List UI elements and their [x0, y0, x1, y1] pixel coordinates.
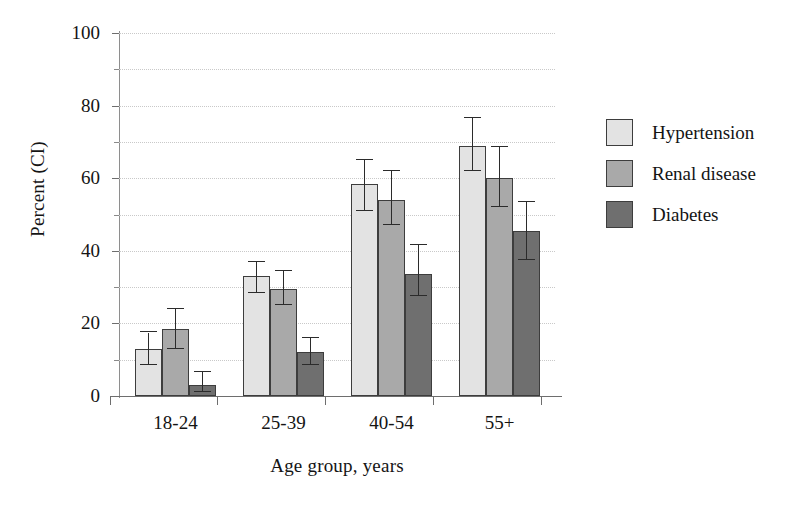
x-axis-line	[110, 396, 562, 397]
error-bar-cap-upper	[464, 117, 481, 118]
error-bar	[162, 309, 189, 396]
error-bar-cap-upper	[248, 261, 265, 262]
legend-swatch	[606, 201, 633, 228]
error-bar	[297, 338, 324, 396]
error-bar	[243, 262, 270, 396]
legend-swatch	[606, 160, 633, 187]
error-bar-cap-upper	[410, 244, 427, 245]
x-tick	[217, 396, 218, 405]
legend-label: Renal disease	[652, 163, 756, 185]
error-bar-cap-upper	[167, 308, 184, 309]
bar-group	[351, 33, 432, 396]
error-bar-cap-lower	[356, 210, 373, 211]
error-bar-line	[391, 171, 392, 225]
x-axis-tick-label: 55+	[430, 412, 570, 434]
y-axis-tick-label: 0	[30, 386, 112, 405]
error-bar-cap-upper	[302, 337, 319, 338]
error-bar-cap-lower	[518, 259, 535, 260]
error-bar-cap-upper	[275, 270, 292, 271]
error-bar	[405, 245, 432, 396]
error-bar-cap-lower	[194, 391, 211, 392]
error-bar	[270, 271, 297, 396]
error-bar-cap-upper	[194, 371, 211, 372]
error-bar-line	[310, 338, 311, 365]
bar-group	[459, 33, 540, 396]
x-tick	[110, 396, 111, 405]
y-axis-tick-label: 40	[30, 241, 112, 260]
error-bar	[135, 332, 162, 396]
error-bar-cap-lower	[383, 224, 400, 225]
error-bar-cap-upper	[356, 159, 373, 160]
error-bar	[459, 118, 486, 396]
error-bar-line	[202, 372, 203, 392]
legend-label: Hypertension	[652, 122, 754, 144]
plot-area	[119, 33, 555, 396]
error-bar-line	[364, 160, 365, 211]
bar-group	[135, 33, 216, 396]
bar-group	[243, 33, 324, 396]
error-bar-line	[526, 202, 527, 260]
error-bar-line	[472, 118, 473, 171]
error-bar-cap-lower	[464, 170, 481, 171]
error-bar-line	[175, 309, 176, 349]
error-bar-cap-lower	[491, 206, 508, 207]
error-bar	[513, 202, 540, 396]
error-bar-cap-upper	[491, 146, 508, 147]
error-bar-cap-upper	[518, 201, 535, 202]
error-bar-line	[148, 333, 149, 366]
error-bar-line	[283, 271, 284, 305]
y-axis-tick-label: 60	[30, 168, 112, 187]
x-tick	[541, 396, 542, 405]
error-bar-line	[418, 245, 419, 296]
y-axis-tick-label: 20	[30, 313, 112, 332]
error-bar-line	[499, 147, 500, 207]
legend-item: Hypertension	[606, 112, 756, 153]
x-tick	[433, 396, 434, 405]
error-bar-cap-lower	[302, 364, 319, 365]
error-bar-cap-lower	[140, 364, 157, 365]
error-bar	[378, 171, 405, 396]
error-bar	[351, 160, 378, 396]
legend-item: Renal disease	[606, 153, 756, 194]
bar-chart: Percent (CI) 020406080100 18-2425-3940-5…	[0, 0, 798, 507]
legend-item: Diabetes	[606, 194, 756, 235]
x-tick	[325, 396, 326, 405]
x-axis-title: Age group, years	[119, 455, 555, 477]
y-axis-tick-label: 100	[30, 23, 112, 42]
error-bar-cap-upper	[140, 331, 157, 332]
legend: HypertensionRenal diseaseDiabetes	[606, 112, 756, 235]
error-bar-cap-upper	[383, 170, 400, 171]
error-bar	[486, 147, 513, 396]
legend-swatch	[606, 119, 633, 146]
error-bar	[189, 372, 216, 396]
error-bar-cap-lower	[275, 304, 292, 305]
error-bar-cap-lower	[410, 295, 427, 296]
error-bar-line	[256, 262, 257, 293]
legend-label: Diabetes	[652, 204, 718, 226]
error-bar-cap-lower	[167, 348, 184, 349]
error-bar-cap-lower	[248, 292, 265, 293]
y-axis-tick-label: 80	[30, 96, 112, 115]
